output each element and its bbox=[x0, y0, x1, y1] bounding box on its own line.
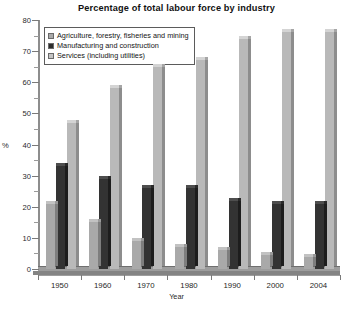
y-axis-tick bbox=[32, 20, 39, 21]
bar-top bbox=[142, 185, 151, 188]
bar-top bbox=[110, 85, 119, 88]
bar-face bbox=[175, 247, 184, 269]
y-axis-tick bbox=[32, 51, 39, 52]
y-axis-minor-tick bbox=[34, 36, 39, 37]
bar-side bbox=[162, 64, 165, 266]
x-axis-tick bbox=[297, 275, 298, 280]
bar-top bbox=[304, 254, 313, 257]
y-axis-tick-label: 60 bbox=[1, 78, 31, 87]
y-axis-minor-tick bbox=[34, 160, 39, 161]
x-axis-tick bbox=[124, 275, 125, 280]
x-axis-tick-label: 1970 bbox=[123, 281, 169, 290]
bar-top bbox=[67, 120, 76, 123]
y-axis-minor-tick bbox=[34, 98, 39, 99]
x-axis-tick bbox=[254, 275, 255, 280]
y-axis-tick-label: 10 bbox=[1, 233, 31, 242]
y-axis-tick bbox=[32, 176, 39, 177]
legend-item: Manufacturing and construction bbox=[48, 41, 189, 51]
bar-top bbox=[325, 29, 334, 32]
bar bbox=[304, 257, 313, 269]
y-axis-minor-tick bbox=[34, 191, 39, 192]
x-axis-tick-label: 2000 bbox=[252, 281, 298, 290]
bar bbox=[132, 241, 141, 269]
y-axis-minor-tick bbox=[34, 222, 39, 223]
y-axis-tick-label: 80 bbox=[1, 16, 31, 25]
x-axis-title: Year bbox=[0, 292, 353, 301]
bar-top bbox=[99, 176, 108, 179]
x-axis-tick bbox=[211, 275, 212, 280]
bar-side bbox=[76, 120, 79, 266]
x-axis-tick-label: 1980 bbox=[166, 281, 212, 290]
bar-face bbox=[89, 222, 98, 269]
bar-top bbox=[272, 201, 281, 204]
bar-side bbox=[195, 185, 198, 266]
y-axis-labels: 01020304050607080 bbox=[0, 0, 31, 310]
bar-top bbox=[196, 57, 205, 60]
bar-face bbox=[218, 250, 227, 269]
bar-top bbox=[218, 247, 227, 250]
bar-face bbox=[46, 204, 55, 269]
y-axis-title: % bbox=[2, 141, 9, 150]
y-axis-minor-tick bbox=[34, 129, 39, 130]
chart-legend: Agriculture, forestry, fisheries and min… bbox=[44, 27, 195, 65]
bar-top bbox=[229, 198, 238, 201]
bar-side bbox=[248, 36, 251, 266]
bar-top bbox=[132, 238, 141, 241]
bar-side bbox=[334, 29, 337, 266]
legend-item-label: Agriculture, forestry, fisheries and min… bbox=[57, 31, 189, 41]
bar-face bbox=[304, 257, 313, 269]
bar-side bbox=[141, 238, 144, 266]
legend-item-label: Services (including utilities) bbox=[57, 51, 145, 61]
legend-item-label: Manufacturing and construction bbox=[57, 41, 159, 51]
legend-swatch-icon bbox=[48, 53, 54, 59]
y-axis-tick bbox=[32, 145, 39, 146]
bar-top bbox=[261, 252, 270, 255]
y-axis-tick bbox=[32, 238, 39, 239]
bar bbox=[261, 255, 270, 269]
y-axis-tick-label: 70 bbox=[1, 47, 31, 56]
x-axis-tick-label: 1950 bbox=[37, 281, 83, 290]
bar-side bbox=[324, 201, 327, 266]
x-axis-tick bbox=[340, 275, 341, 280]
bar-side bbox=[108, 176, 111, 266]
bar-side bbox=[205, 57, 208, 266]
bar bbox=[175, 247, 184, 269]
bar-side bbox=[238, 198, 241, 266]
bar bbox=[89, 222, 98, 269]
bar bbox=[46, 204, 55, 269]
chart-title: Percentage of total labour force by indu… bbox=[0, 3, 353, 13]
y-axis-tick-label: 20 bbox=[1, 202, 31, 211]
legend-item: Services (including utilities) bbox=[48, 51, 189, 61]
y-axis-tick-label: 50 bbox=[1, 109, 31, 118]
bar-top bbox=[315, 201, 324, 204]
y-axis-tick bbox=[32, 269, 39, 270]
bar-top bbox=[186, 185, 195, 188]
bar-side bbox=[281, 201, 284, 266]
bar-top bbox=[175, 244, 184, 247]
bar-top bbox=[56, 163, 65, 166]
bar-side bbox=[119, 85, 122, 266]
bar-top bbox=[46, 201, 55, 204]
x-axis-tick bbox=[38, 275, 39, 280]
bar-face bbox=[132, 241, 141, 269]
bar-face bbox=[261, 255, 270, 269]
bar-side bbox=[291, 29, 294, 266]
legend-item: Agriculture, forestry, fisheries and min… bbox=[48, 31, 189, 41]
bar bbox=[218, 250, 227, 269]
bar-side bbox=[65, 163, 68, 266]
bar-top bbox=[239, 36, 248, 39]
x-axis-tick-label: 1960 bbox=[80, 281, 126, 290]
bar-side bbox=[184, 244, 187, 266]
x-axis-tick-label: 2004 bbox=[295, 281, 341, 290]
bar-side bbox=[98, 219, 101, 266]
y-axis-tick-label: 0 bbox=[1, 265, 31, 274]
bar-top bbox=[282, 29, 291, 32]
legend-swatch-icon bbox=[48, 33, 54, 39]
y-axis-tick bbox=[32, 113, 39, 114]
bar-side bbox=[151, 185, 154, 266]
y-axis-tick-label: 30 bbox=[1, 171, 31, 180]
x-axis-tick-label: 1990 bbox=[209, 281, 255, 290]
y-axis-tick bbox=[32, 207, 39, 208]
y-axis-minor-tick bbox=[34, 67, 39, 68]
y-axis-minor-tick bbox=[34, 253, 39, 254]
